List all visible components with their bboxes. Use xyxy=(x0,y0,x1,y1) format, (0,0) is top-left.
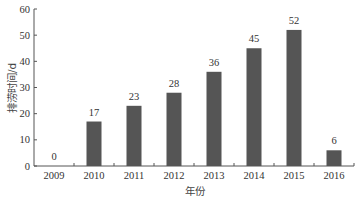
bar-value-label: 36 xyxy=(209,57,220,68)
x-tick-label: 2010 xyxy=(84,170,105,181)
x-tick-label: 2014 xyxy=(244,170,266,181)
bar-chart: 0102030405060 20092010201120122013201420… xyxy=(0,0,355,199)
y-tick-label: 50 xyxy=(20,30,31,41)
y-tick-label: 40 xyxy=(20,56,31,67)
bars xyxy=(87,30,342,166)
bar xyxy=(127,106,142,166)
x-axis: 20092010201120122013201420152016 xyxy=(34,163,354,181)
bar-value-label: 17 xyxy=(89,107,100,118)
x-tick-label: 2011 xyxy=(124,170,145,181)
bar xyxy=(247,48,262,166)
y-tick-label: 20 xyxy=(20,108,31,119)
bar-value-label: 23 xyxy=(129,91,140,102)
x-tick-label: 2016 xyxy=(324,170,345,181)
bar-value-label: 52 xyxy=(289,15,300,26)
bar-value-label: 28 xyxy=(169,78,180,89)
x-tick-label: 2009 xyxy=(44,170,65,181)
bar xyxy=(167,93,182,166)
bar xyxy=(87,122,102,166)
bar xyxy=(287,30,302,166)
x-tick-label: 2013 xyxy=(204,170,225,181)
x-tick-label: 2012 xyxy=(164,170,185,181)
x-axis-title: 年份 xyxy=(185,185,206,197)
y-tick-label: 30 xyxy=(20,82,31,93)
bar xyxy=(327,150,342,166)
y-tick-label: 10 xyxy=(20,134,31,145)
bar-value-label: 45 xyxy=(249,33,260,44)
x-tick-label: 2015 xyxy=(284,170,305,181)
y-tick-label: 60 xyxy=(20,4,31,15)
bar xyxy=(207,72,222,166)
bar-value-label: 6 xyxy=(331,135,336,146)
y-tick-label: 0 xyxy=(25,161,30,172)
bar-value-label: 0 xyxy=(51,151,56,162)
y-axis-title: 排涝时间/d xyxy=(6,63,18,113)
y-axis: 0102030405060 xyxy=(20,4,38,172)
